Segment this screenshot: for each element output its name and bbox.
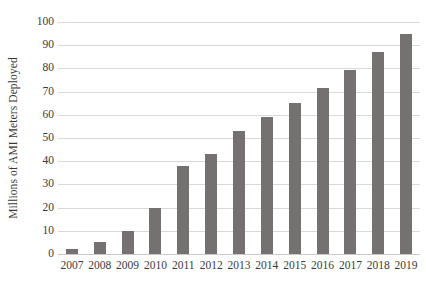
bar xyxy=(205,154,217,254)
x-axis-tick-label: 2015 xyxy=(283,260,306,272)
bar xyxy=(317,88,329,254)
bar-slot xyxy=(86,22,114,254)
x-axis-tick-label: 2010 xyxy=(144,260,167,272)
bar-slot xyxy=(309,22,337,254)
plot-area xyxy=(58,22,420,254)
bar-slot xyxy=(142,22,170,254)
bar-slot xyxy=(364,22,392,254)
bar xyxy=(233,131,245,254)
y-axis-tick-labels: 0102030405060708090100 xyxy=(22,22,54,254)
bar-slot xyxy=(392,22,420,254)
bar-slot xyxy=(225,22,253,254)
x-axis-tick-labels: 2007200820092010201120122013201420152016… xyxy=(58,260,420,280)
y-axis-tick-label: 20 xyxy=(28,202,54,214)
bar-chart: Millions of AMI Meters Deployed 01020304… xyxy=(0,0,426,286)
bar xyxy=(94,242,106,254)
bar-slot xyxy=(281,22,309,254)
bar-slot xyxy=(197,22,225,254)
y-axis-tick-label: 90 xyxy=(28,39,54,51)
bar xyxy=(344,70,356,254)
bar xyxy=(122,231,134,254)
bar xyxy=(149,208,161,254)
bars-group xyxy=(58,22,420,254)
y-axis-title: Millions of AMI Meters Deployed xyxy=(2,22,24,254)
bar-slot xyxy=(58,22,86,254)
x-axis-tick-label: 2007 xyxy=(60,260,83,272)
x-axis-tick-label: 2009 xyxy=(116,260,139,272)
bar xyxy=(177,166,189,254)
x-axis-tick-label: 2019 xyxy=(395,260,418,272)
bar xyxy=(372,52,384,254)
y-axis-tick-label: 100 xyxy=(28,16,54,28)
bar-slot xyxy=(336,22,364,254)
bar-slot xyxy=(114,22,142,254)
x-axis-tick-label: 2014 xyxy=(255,260,278,272)
bar xyxy=(261,117,273,254)
y-axis-tick-label: 70 xyxy=(28,86,54,98)
y-axis-tick-label: 60 xyxy=(28,109,54,121)
y-axis-tick-label: 0 xyxy=(28,248,54,260)
y-axis-tick-label: 10 xyxy=(28,225,54,237)
x-axis-tick-label: 2013 xyxy=(228,260,251,272)
x-axis-tick-label: 2016 xyxy=(311,260,334,272)
y-axis-tick-label: 80 xyxy=(28,63,54,75)
x-axis-tick-label: 2008 xyxy=(88,260,111,272)
bar-slot xyxy=(253,22,281,254)
gridline xyxy=(58,254,420,255)
bar-slot xyxy=(169,22,197,254)
x-axis-tick-label: 2012 xyxy=(200,260,223,272)
x-axis-tick-label: 2018 xyxy=(367,260,390,272)
y-axis-tick-label: 30 xyxy=(28,179,54,191)
x-axis-tick-label: 2017 xyxy=(339,260,362,272)
bar xyxy=(400,34,412,254)
y-axis-tick-label: 40 xyxy=(28,155,54,167)
bar xyxy=(66,249,78,254)
bar xyxy=(289,103,301,254)
x-axis-tick-label: 2011 xyxy=(172,260,195,272)
y-axis-tick-label: 50 xyxy=(28,132,54,144)
